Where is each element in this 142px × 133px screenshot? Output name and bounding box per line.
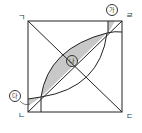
region-label-na: 나 — [66, 55, 78, 67]
top-right-arc-ext — [107, 32, 122, 33]
vertex-label-top-right: ㄹ — [126, 12, 133, 20]
region-label-ga: 가 — [106, 4, 118, 16]
region-label-da: 다 — [9, 90, 21, 102]
vertex-label-bottom-left: ㄴ — [18, 112, 25, 120]
vertex-label-bottom-right: ㄷ — [126, 113, 133, 121]
vertex-label-top-left: ㄱ — [18, 14, 25, 22]
